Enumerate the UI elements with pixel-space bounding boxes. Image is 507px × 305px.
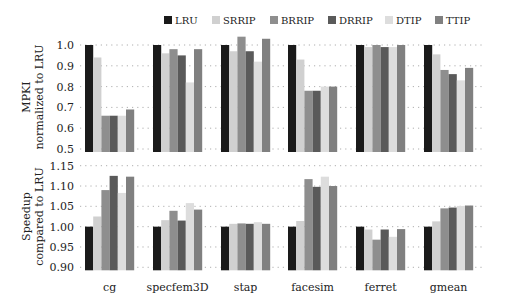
bar-lru — [85, 45, 93, 152]
bar-lru — [288, 45, 296, 152]
y-tick-label: 0.7 — [57, 101, 75, 114]
bar-brrip — [372, 240, 380, 271]
bar-lru — [221, 45, 229, 152]
bar-drrip — [178, 221, 186, 271]
legend-swatch — [164, 16, 172, 24]
bar-brrip — [101, 116, 109, 152]
bar-srrip — [296, 60, 304, 152]
bar-ttip — [126, 177, 134, 271]
bar-brrip — [169, 49, 177, 152]
x-tick-label: facesim — [291, 281, 334, 294]
legend-label: TTIP — [446, 15, 470, 26]
legend-swatch — [385, 16, 393, 24]
bar-lru — [424, 227, 432, 271]
bar-ttip — [262, 224, 270, 270]
y-tick-label: 1.00 — [50, 221, 75, 234]
bar-group-stap — [221, 222, 270, 270]
x-tick-label: cg — [103, 281, 116, 294]
legend: LRUSRRIPBRRIPDRRIPDTIPTTIP — [164, 15, 470, 26]
bar-brrip — [237, 37, 245, 152]
bar-brrip — [101, 190, 109, 270]
mpki-chart: 1.00.90.80.70.60.5MPKInormalized to LRU — [20, 37, 482, 156]
bar-drrip — [381, 47, 389, 152]
bar-ttip — [465, 68, 473, 152]
legend-label: DRRIP — [339, 15, 373, 26]
bar-dtip — [254, 222, 262, 270]
legend-item-drrip: DRRIP — [328, 15, 373, 26]
x-axis-labels: cgspecfem3Dstapfacesimferretgmean — [103, 281, 467, 294]
bar-srrip — [229, 51, 237, 152]
legend-label: DTIP — [396, 15, 422, 26]
bar-brrip — [440, 70, 448, 152]
bar-brrip — [304, 91, 312, 152]
bar-srrip — [93, 217, 101, 271]
bar-group-ferret — [356, 227, 405, 271]
bar-group-facesim — [288, 45, 337, 152]
y-tick-label: 0.90 — [50, 261, 75, 274]
bar-ttip — [262, 39, 270, 152]
bar-ttip — [465, 206, 473, 271]
legend-swatch — [212, 16, 220, 24]
bar-drrip — [110, 116, 118, 152]
legend-item-srrip: SRRIP — [212, 15, 256, 26]
bar-dtip — [389, 47, 397, 152]
bar-ttip — [194, 49, 202, 152]
bar-group-cg — [85, 45, 134, 152]
y-tick-label: 1.05 — [50, 200, 75, 213]
legend-swatch — [435, 16, 443, 24]
bar-srrip — [296, 221, 304, 270]
y-tick-label: 0.6 — [57, 122, 75, 135]
bar-group-facesim — [288, 177, 337, 271]
legend-label: SRRIP — [223, 15, 256, 26]
y-tick-label: 1.10 — [50, 180, 75, 193]
bar-brrip — [169, 211, 177, 270]
bar-drrip — [178, 55, 186, 152]
bar-ttip — [329, 87, 337, 152]
bar-dtip — [254, 62, 262, 152]
bar-lru — [288, 227, 296, 271]
bar-ttip — [194, 210, 202, 271]
bar-group-cg — [85, 176, 134, 270]
bar-brrip — [237, 223, 245, 270]
bar-drrip — [110, 176, 118, 270]
bar-srrip — [229, 224, 237, 270]
bar-dtip — [186, 82, 194, 152]
legend-label: LRU — [175, 15, 198, 26]
bar-group-ferret — [356, 45, 405, 152]
bar-drrip — [313, 91, 321, 152]
bar-srrip — [364, 47, 372, 152]
bar-drrip — [449, 74, 457, 152]
y-tick-label: 0.9 — [57, 60, 75, 73]
y-tick-label: 1.0 — [57, 39, 75, 52]
bar-brrip — [440, 208, 448, 270]
bar-dtip — [118, 116, 126, 152]
bar-dtip — [118, 193, 126, 270]
bar-drrip — [246, 51, 254, 152]
y-tick-label: 0.5 — [57, 143, 75, 156]
bar-dtip — [186, 203, 194, 270]
legend-swatch — [270, 16, 278, 24]
y-tick-label: 0.95 — [50, 241, 75, 254]
bar-dtip — [321, 87, 329, 152]
chart-figure: LRUSRRIPBRRIPDRRIPDTIPTTIP 1.00.90.80.70… — [0, 0, 507, 305]
bar-group-gmean — [424, 45, 473, 152]
x-tick-label: ferret — [365, 281, 398, 294]
bar-ttip — [126, 109, 134, 152]
bar-dtip — [321, 177, 329, 271]
bar-lru — [153, 45, 161, 152]
x-tick-label: gmean — [430, 281, 468, 294]
bar-ttip — [329, 186, 337, 270]
bar-brrip — [304, 179, 312, 270]
bar-lru — [424, 45, 432, 152]
bar-lru — [356, 227, 364, 271]
chart-canvas: LRUSRRIPBRRIPDRRIPDTIPTTIP 1.00.90.80.70… — [0, 0, 507, 305]
y-axis-label: normalized to LRU — [33, 44, 46, 149]
bar-srrip — [432, 221, 440, 270]
bar-srrip — [93, 57, 101, 152]
y-tick-label: 0.8 — [57, 81, 75, 94]
bar-ttip — [397, 229, 405, 270]
legend-item-dtip: DTIP — [385, 15, 422, 26]
x-tick-label: stap — [234, 281, 258, 294]
y-tick-label: 1.15 — [50, 160, 75, 173]
bar-lru — [153, 227, 161, 271]
